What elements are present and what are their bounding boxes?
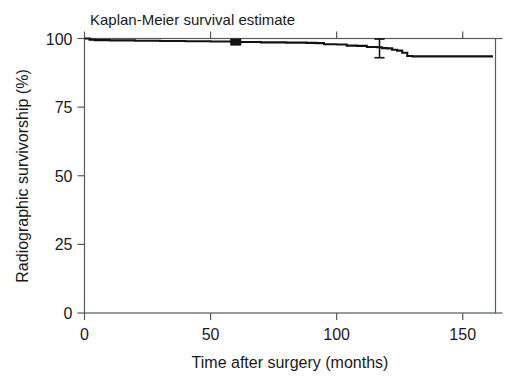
- x-axis-title: Time after surgery (months): [192, 354, 389, 371]
- x-tick-label: 50: [202, 326, 220, 343]
- y-tick-label: 25: [55, 236, 73, 253]
- y-axis-title: Radiographic survivorship (%): [14, 69, 31, 282]
- footer-partial-text: [0, 380, 517, 391]
- chart-canvas: Kaplan-Meier survival estimate Radiograp…: [0, 0, 517, 391]
- x-tick-label: 100: [323, 326, 350, 343]
- y-axis-ticks: 0255075100: [46, 31, 85, 323]
- kaplan-meier-figure: Kaplan-Meier survival estimate Radiograp…: [0, 0, 517, 391]
- chart-title: Kaplan-Meier survival estimate: [90, 11, 295, 28]
- y-tick-label: 75: [55, 99, 73, 116]
- censor-marker-group: [231, 39, 241, 45]
- x-axis-ticks: 050100150: [80, 313, 476, 343]
- km-survival-curve: [85, 39, 493, 57]
- y-tick-label: 50: [55, 168, 73, 185]
- x-tick-label: 150: [449, 326, 476, 343]
- km-curve-group: [85, 39, 493, 57]
- censor-marker: [231, 39, 241, 45]
- mirror-ticks: [85, 32, 503, 314]
- plot-frame: [85, 39, 496, 314]
- x-tick-label: 0: [80, 326, 89, 343]
- y-tick-label: 100: [46, 31, 73, 48]
- y-tick-label: 0: [64, 305, 73, 322]
